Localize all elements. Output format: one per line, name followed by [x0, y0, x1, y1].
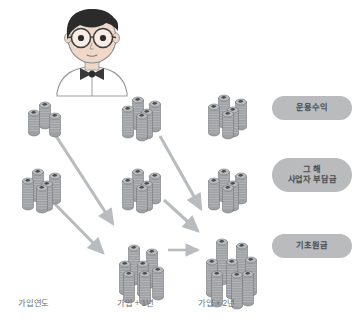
axis-label-year0: 가입연도	[18, 296, 49, 308]
legend-pill-principal[interactable]: 기초원금	[272, 234, 352, 258]
coin-stack-year2-middle	[209, 169, 247, 213]
coin-stack-year0-top	[29, 102, 61, 137]
coin-stack-year2-top	[209, 95, 247, 139]
coin-stack-year0-middle	[23, 169, 61, 213]
axis-label-year1: 가입 + 1년	[117, 296, 154, 308]
diagram-canvas: 운용수익 그 해 사업자 부담금 기초원금 가입연도 가입 + 1년 가입 + …	[0, 0, 357, 326]
legend-pill-yield[interactable]: 운용수익	[272, 96, 352, 120]
legend-pill-employer-contribution[interactable]: 그 해 사업자 부담금	[272, 158, 352, 192]
coin-stack-year1-middle	[123, 169, 161, 213]
coin-stack-year1-top	[123, 97, 161, 141]
axis-label-year2: 가입 + 2년	[198, 296, 235, 308]
